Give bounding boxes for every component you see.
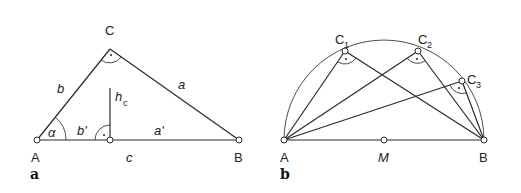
label-b-vertex: B — [234, 150, 243, 165]
segment-c1-b — [345, 51, 484, 140]
side-a — [110, 49, 239, 140]
point-c3 — [459, 78, 465, 84]
right-angle-c1-arc — [338, 58, 356, 64]
point-foot — [107, 137, 113, 143]
label-c-vertex: C — [105, 23, 114, 38]
label-alpha: α — [48, 125, 56, 140]
point-c2 — [415, 48, 421, 54]
label-c3: C — [467, 72, 476, 87]
segment-c2-b — [418, 51, 484, 140]
label-side-a: a — [178, 77, 185, 92]
figure-b: A B M C 1 C 2 C 3 b — [280, 32, 488, 182]
right-angle-dot — [458, 87, 460, 89]
point-b — [236, 137, 242, 143]
label-a-vertex: A — [280, 150, 289, 165]
label-m: M — [378, 150, 389, 165]
label-c1: C — [335, 32, 344, 47]
label-side-b: b — [57, 81, 64, 96]
thales-semicircle — [284, 40, 484, 140]
label-c2: C — [418, 32, 427, 47]
label-a-vertex: A — [31, 150, 40, 165]
right-angle-dot — [103, 134, 105, 136]
label-c2-sub: 2 — [427, 40, 432, 50]
segment-a-c2 — [284, 51, 418, 140]
label-hc: h — [115, 89, 122, 104]
label-side-c: c — [126, 150, 133, 165]
right-angle-dot — [110, 54, 112, 56]
label-a-prime: a' — [154, 123, 164, 138]
figure-a: A B C c b a a' b' α h c a — [30, 23, 243, 182]
panel-label-b: b — [280, 166, 290, 182]
panel-label-a: a — [30, 166, 39, 182]
angle-alpha-arc — [55, 117, 66, 140]
segment-a-c1 — [284, 51, 345, 140]
point-b — [481, 137, 487, 143]
label-c3-sub: 3 — [476, 80, 481, 90]
point-a — [34, 137, 40, 143]
point-m — [381, 137, 387, 143]
right-angle-c2-arc — [407, 58, 425, 63]
segment-a-c3 — [284, 81, 462, 140]
label-hc-sub: c — [123, 98, 128, 108]
label-c1-sub: 1 — [344, 40, 349, 50]
label-b-vertex: B — [479, 150, 488, 165]
right-angle-dot — [416, 58, 418, 60]
right-angle-dot — [345, 58, 347, 60]
point-a — [281, 137, 287, 143]
label-b-prime: b' — [77, 123, 87, 138]
right-angle-c-arc — [101, 57, 121, 63]
figure-canvas: A B C c b a a' b' α h c a — [0, 0, 521, 193]
